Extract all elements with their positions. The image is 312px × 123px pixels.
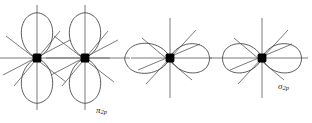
pi-2p-orbital-group bbox=[0, 5, 130, 110]
pi-atom-right-nucleus bbox=[81, 54, 90, 63]
sigma-subscript: 2p bbox=[282, 84, 289, 91]
orbital-diagram-canvas bbox=[0, 0, 312, 123]
pi-orbital-label: π2p bbox=[96, 106, 107, 116]
sigma-atom-left-nucleus bbox=[166, 54, 175, 63]
pi-atom-left-nucleus bbox=[33, 54, 42, 63]
pi-subscript: 2p bbox=[101, 108, 108, 115]
sigma-orbital-label: σ2p bbox=[278, 82, 289, 92]
sigma-atom-right-nucleus bbox=[258, 54, 267, 63]
orbital-diagram-figure: π2p σ2p bbox=[0, 0, 312, 123]
pi-atom-left-axis-lines bbox=[0, 5, 110, 110]
